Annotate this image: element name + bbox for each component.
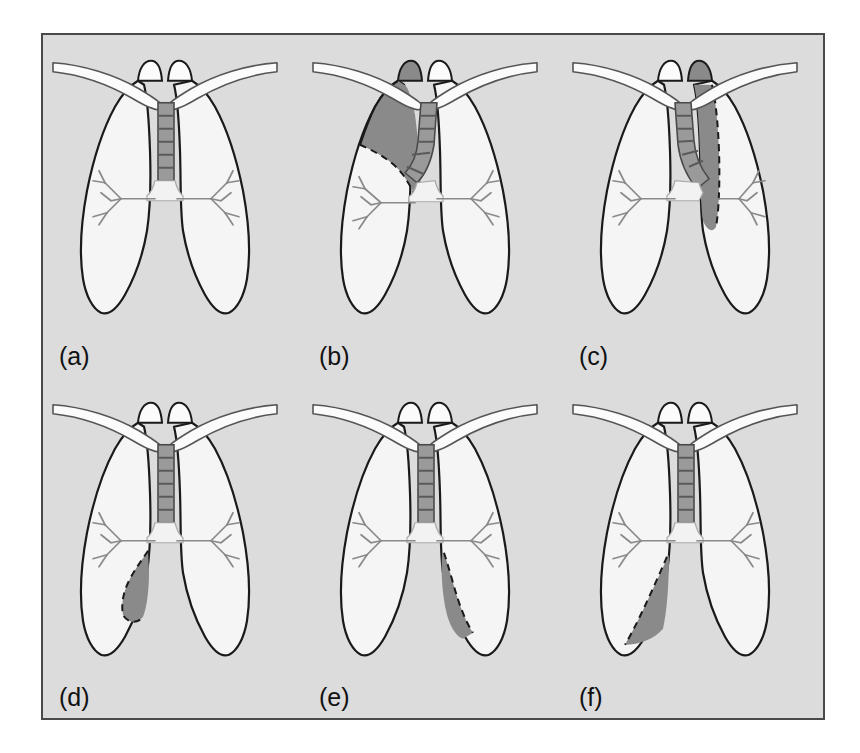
right-apex — [138, 402, 162, 422]
panel-label-c: (c) — [579, 344, 608, 369]
panel-d[interactable]: (d) — [43, 377, 303, 719]
lungs-group-d — [53, 402, 277, 655]
right-apex — [658, 61, 682, 81]
left-apex — [168, 61, 192, 81]
panel-c[interactable]: (c) — [563, 35, 823, 377]
panel-e[interactable]: (e) — [303, 377, 563, 719]
lung-diagram-f — [563, 377, 823, 719]
right-lung-outline — [81, 81, 150, 314]
trachea — [418, 444, 434, 522]
left-apex — [688, 61, 712, 81]
lung-diagram-d — [43, 377, 303, 719]
panel-f[interactable]: (f) — [563, 377, 823, 719]
panel-label-f: (f) — [579, 685, 603, 710]
right-lung-outline — [601, 81, 670, 314]
left-apex — [168, 402, 192, 422]
panel-label-a: (a) — [59, 344, 90, 369]
right-lung-outline — [341, 422, 410, 655]
right-apex — [658, 402, 682, 422]
panel-b[interactable]: (b) — [303, 35, 563, 377]
panel-label-d: (d) — [59, 685, 90, 710]
left-apex — [428, 402, 452, 422]
lung-diagram-e — [303, 377, 563, 719]
right-apex — [398, 402, 422, 422]
trachea — [678, 444, 694, 522]
trachea — [158, 444, 174, 522]
lungs-group-c — [573, 61, 797, 314]
mediastinum — [147, 522, 183, 542]
left-apex — [428, 61, 452, 81]
lungs-group-a — [53, 61, 277, 314]
mediastinum — [667, 522, 703, 542]
right-apex — [138, 61, 162, 81]
right-apex — [398, 61, 422, 81]
lung-diagram-a — [43, 35, 303, 377]
lungs-group-b — [313, 61, 537, 314]
panel-a[interactable]: (a) — [43, 35, 303, 377]
figure-root: (a) — [0, 0, 860, 753]
lung-diagram-b — [303, 35, 563, 377]
panel-grid: (a) — [43, 35, 823, 718]
panel-label-b: (b) — [319, 344, 350, 369]
lungs-group-f — [573, 402, 797, 655]
mediastinum — [407, 522, 443, 542]
mediastinum — [667, 181, 703, 201]
trachea — [158, 103, 174, 181]
panel-label-e: (e) — [319, 685, 350, 710]
left-apex — [688, 402, 712, 422]
lungs-group-e — [313, 402, 537, 655]
lung-diagram-c — [563, 35, 823, 377]
figure-panel: (a) — [41, 33, 825, 720]
mediastinum — [147, 181, 183, 201]
